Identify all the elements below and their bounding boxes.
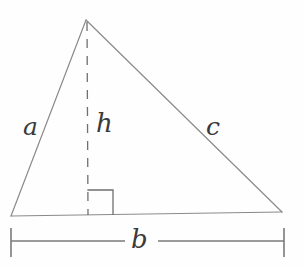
altitude-dashed-line: [87, 22, 88, 215]
label-side-a: a: [23, 114, 38, 139]
triangle-diagram-canvas: [0, 0, 303, 268]
triangle-base-b: [11, 212, 282, 216]
right-angle-marker: [88, 190, 113, 214]
geometry-diagram: a h c b: [0, 0, 303, 268]
label-base-b: b: [131, 226, 148, 252]
label-side-c: c: [206, 114, 220, 139]
label-height-h: h: [96, 110, 113, 136]
triangle-side-c: [86, 20, 282, 212]
